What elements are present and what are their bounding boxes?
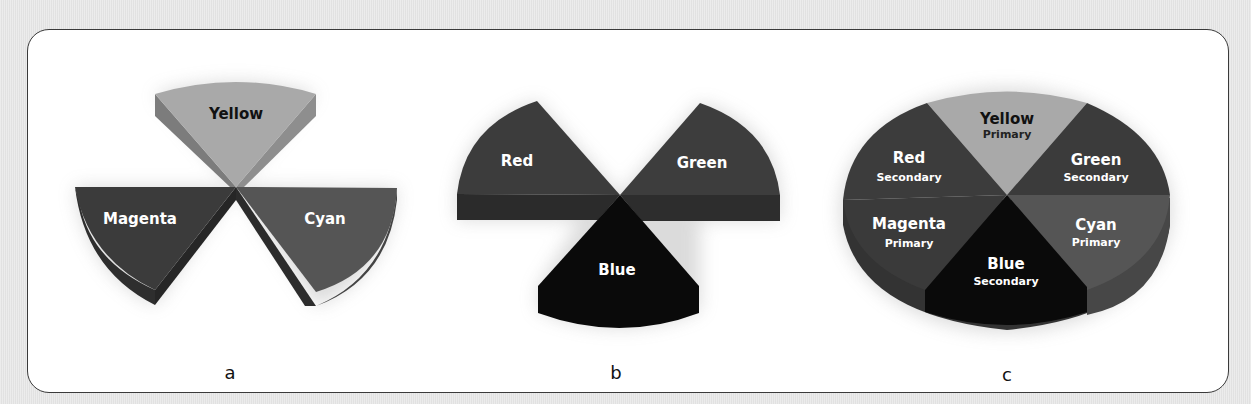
wedge-red: Red: [457, 101, 620, 220]
wedge-label: Blue: [598, 261, 635, 279]
wedge-label: Magenta: [103, 210, 177, 228]
panel-a: Yellow Magenta Cyan: [75, 82, 397, 306]
wedge-sublabel: Primary: [1072, 236, 1121, 249]
wedge-label: Cyan: [1075, 216, 1117, 234]
wedge-label: Magenta: [872, 215, 946, 233]
wedge-sublabel: Secondary: [1063, 171, 1128, 184]
wedge-sublabel: Secondary: [973, 275, 1038, 288]
panel-a-caption: a: [224, 362, 235, 383]
wedge-sublabel: Secondary: [876, 171, 941, 184]
wedge-label: Green: [1071, 151, 1122, 169]
wedge-label: Yellow: [208, 105, 263, 123]
panel-c-caption: c: [1002, 364, 1012, 385]
wedge-sublabel: Primary: [983, 128, 1032, 141]
wedge-green: Green: [620, 103, 780, 221]
wedge-sublabel: Primary: [885, 237, 934, 250]
wedge-yellow: Yellow: [155, 82, 316, 187]
wedge-label: Red: [893, 149, 925, 167]
wedge-label: Yellow: [979, 110, 1034, 128]
wedge-label: Red: [501, 152, 533, 170]
wedge-label: Cyan: [304, 210, 346, 228]
wedge-cyan: Cyan: [236, 187, 397, 306]
wedge-label: Blue: [987, 255, 1024, 273]
panel-b-caption: b: [610, 362, 621, 383]
panel-b: Red Green Blue: [457, 101, 780, 328]
panel-c: Yellow Primary Green Secondary Cyan Prim…: [840, 88, 1172, 332]
color-wheel-figure: Yellow Magenta Cyan Red: [0, 0, 1251, 404]
wedge-label: Green: [677, 154, 728, 172]
